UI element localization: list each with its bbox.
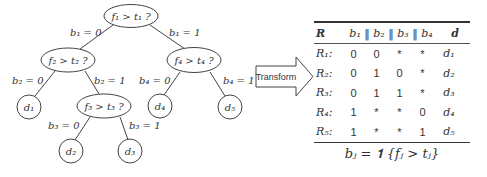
table-row: R₅: 1 * * 1 d₅ [314,122,470,142]
leaf-d2-label: d₂ [66,146,76,157]
transform-label: Transform [256,72,297,82]
cell-b2: 0 [365,48,388,60]
edge-label-b2-0: b₂ = 0 [12,75,44,86]
leaf-d3-label: d₃ [125,146,135,157]
cell-b4: * [411,48,434,60]
node-f4-label: f₄ > t₄ ? [173,55,214,66]
cell-b2: 1 [365,87,388,99]
cell-rule: R₂: [314,67,342,80]
table-row: R₁: 0 0 * * d₁ [314,44,470,64]
cell-leaf: d₃ [434,86,464,99]
edge-label-b1-1: b₁ = 1 [169,27,201,38]
table-row: R₂: 0 1 0 * d₂ [314,64,470,84]
cell-b4: 1 [411,126,434,138]
node-root-label: f₁ > t₁ ? [110,11,151,22]
edge-label-b3-0: b₃ = 0 [48,120,80,131]
cell-b1: 0 [342,48,365,60]
header-bits: b₁ ‖ b₂ ‖ b₃ ‖ b₄ [342,27,440,40]
leaf-d1-label: d₁ [24,102,34,113]
node-f2-label: f₂ > t₂ ? [47,55,88,66]
indicator-formula: bⱼ = 𝟏 {fⱼ > tⱼ} [314,146,470,162]
edge-label-b1-0: b₁ = 0 [70,27,102,38]
table-row: R₄: 1 * * 0 d₄ [314,103,470,123]
cell-b2: * [365,126,388,138]
cell-rule: R₄: [314,106,342,119]
leaf-d5-label: d₅ [225,102,235,113]
edge-label-b2-1: b₂ = 1 [94,75,126,86]
leaf-d4-label: d₄ [155,101,165,112]
cell-b1: 1 [342,106,365,118]
cell-b3: 1 [388,87,411,99]
cell-b1: 1 [342,126,365,138]
table-bottom-rule [314,142,470,143]
table-row: R₃: 0 1 1 * d₃ [314,83,470,103]
edge-label-b3-1: b₃ = 1 [129,120,161,131]
cell-leaf: d₁ [434,47,464,60]
header-rule: R [314,27,342,40]
cell-b4: * [411,87,434,99]
cell-b4: * [411,67,434,79]
cell-rule: R₃: [314,86,342,99]
cell-b2: 1 [365,67,388,79]
cell-b3: 0 [388,67,411,79]
cell-b3: * [388,106,411,118]
cell-leaf: d₅ [434,125,464,138]
edge-label-b4-0: b₄ = 0 [139,75,171,86]
cell-b1: 0 [342,87,365,99]
cell-b3: * [388,126,411,138]
cell-b1: 0 [342,67,365,79]
cell-b2: * [365,106,388,118]
cell-rule: R₅: [314,125,342,138]
cell-b4: 0 [411,106,434,118]
cell-leaf: d₄ [434,106,464,119]
rules-table: R b₁ ‖ b₂ ‖ b₃ ‖ b₄ d R₁: 0 0 * * d₁ R₂:… [314,21,470,143]
edge-label-b4-1: b₄ = 1 [223,75,255,86]
edge-f3-d3 [120,117,128,140]
header-leaf: d [440,27,470,40]
cell-rule: R₁: [314,47,342,60]
node-f3-label: f₃ > t₃ ? [83,101,124,112]
table-header-row: R b₁ ‖ b₂ ‖ b₃ ‖ b₄ d [314,23,470,43]
cell-b3: * [388,48,411,60]
cell-leaf: d₂ [434,67,464,80]
